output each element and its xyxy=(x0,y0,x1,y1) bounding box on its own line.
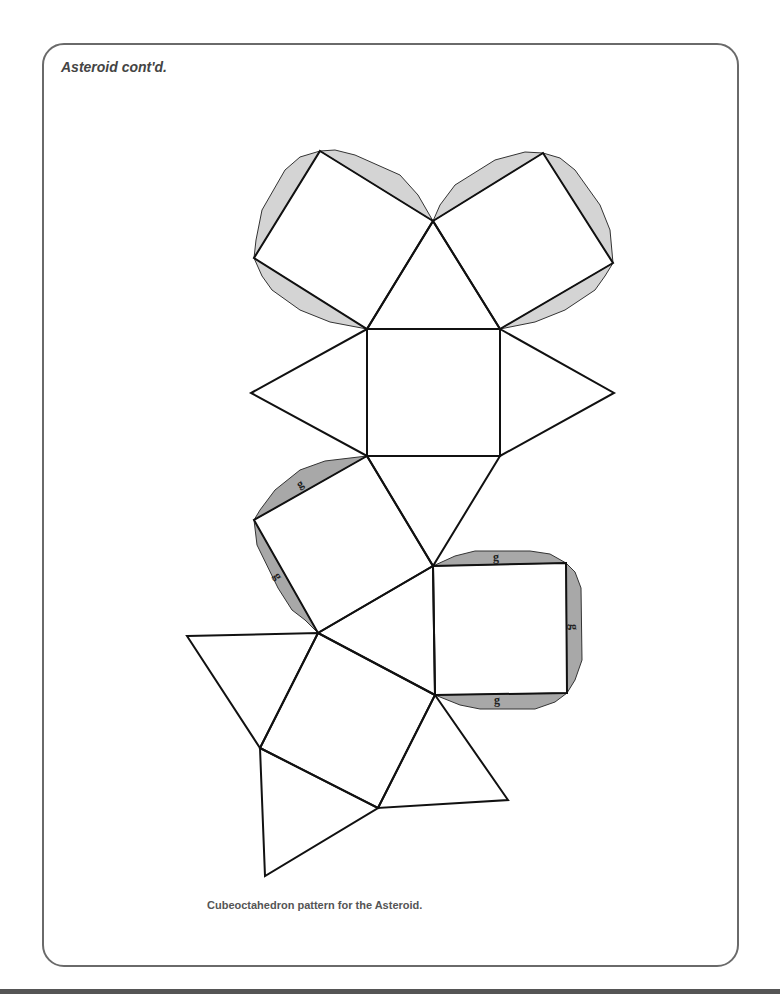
svg-text:g: g xyxy=(493,550,499,564)
net-outline xyxy=(187,151,614,876)
glue-tabs-dark xyxy=(254,456,582,709)
svg-text:g: g xyxy=(567,624,581,630)
glue-tab-labels: g g g g g xyxy=(271,476,581,707)
svg-text:g: g xyxy=(494,693,500,707)
page-bottom-bar xyxy=(0,989,780,994)
figure-caption: Cubeoctahedron pattern for the Asteroid. xyxy=(207,899,422,911)
cubeoctahedron-net-diagram: g g g g g xyxy=(0,0,780,994)
